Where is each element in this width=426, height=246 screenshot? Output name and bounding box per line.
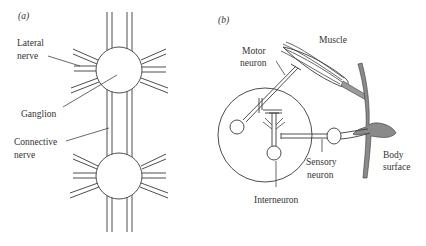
panel-a: (a): [14, 11, 168, 232]
label-connective-nerve-2: nerve: [14, 150, 35, 160]
panel-b-tag: (b): [218, 15, 229, 26]
ganglion-upper: [96, 47, 142, 93]
label-lateral-nerve-2: nerve: [17, 51, 38, 61]
leader-motor-neuron: [276, 61, 285, 75]
ganglion-lower: [96, 153, 142, 199]
label-muscle: Muscle: [319, 35, 347, 45]
label-interneuron: Interneuron: [254, 195, 299, 205]
interneuron: [263, 113, 285, 160]
label-lateral-nerve-1: Lateral: [17, 38, 44, 48]
label-connective-nerve-1: Connective: [14, 137, 57, 147]
label-sensory-neuron-1: Sensory: [306, 157, 337, 167]
label-motor-neuron-2: neuron: [240, 58, 267, 68]
sensory-neuron: [281, 128, 370, 144]
body-surface: [353, 63, 396, 178]
nervous-system-diagram: (a): [0, 0, 426, 246]
label-body-surface-1: Body: [383, 150, 404, 160]
label-ganglion: Ganglion: [21, 109, 57, 119]
panel-b: (b): [218, 15, 410, 205]
muscle: [281, 42, 368, 100]
leader-lateral-nerve: [48, 56, 80, 66]
label-motor-neuron-1: Motor: [242, 46, 267, 56]
leader-connective-nerve: [66, 128, 109, 141]
label-sensory-neuron-2: neuron: [307, 170, 334, 180]
label-body-surface-2: surface: [383, 162, 410, 172]
panel-a-tag: (a): [18, 11, 29, 22]
